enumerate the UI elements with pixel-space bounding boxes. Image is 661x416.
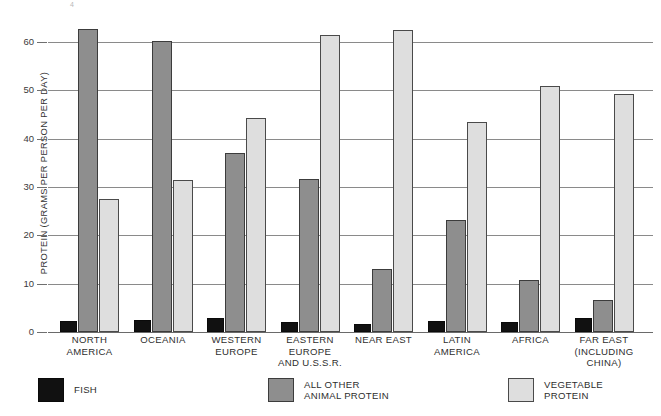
bar-group	[281, 14, 340, 332]
y-tick-mark	[37, 284, 47, 285]
bar-animal-protein	[446, 220, 466, 332]
page-corner-mark: 4	[70, 1, 74, 8]
y-tick-label: 50	[8, 84, 34, 95]
legend-item: VEGETABLE PROTEIN	[508, 378, 603, 402]
chart-legend: FISHALL OTHER ANIMAL PROTEINVEGETABLE PR…	[38, 378, 658, 412]
bar-fish	[60, 321, 77, 332]
bar-group	[60, 14, 119, 332]
bar-fish	[575, 318, 592, 333]
y-tick-mark	[37, 332, 47, 333]
bar-fish	[207, 318, 224, 332]
bar-fish	[428, 321, 445, 332]
bar-vegetable-protein	[246, 118, 266, 332]
bar-animal-protein	[152, 41, 172, 332]
bar-group	[134, 14, 193, 332]
y-tick-label: 20	[8, 229, 34, 240]
bar-group	[428, 14, 487, 332]
bar-animal-protein	[519, 280, 539, 332]
bar-fish	[354, 324, 371, 332]
bar-vegetable-protein	[99, 199, 119, 332]
y-tick-mark	[37, 90, 47, 91]
y-tick-label: 60	[8, 36, 34, 47]
bar-vegetable-protein	[467, 122, 487, 332]
bar-group	[207, 14, 266, 332]
y-tick-mark	[37, 42, 47, 43]
legend-item: FISH	[38, 378, 97, 402]
x-axis-category-labels: NORTH AMERICAOCEANIAWESTERN EUROPEEASTER…	[48, 334, 653, 384]
protein-consumption-bar-chart: 4 PROTEIN (GRAMS PER PERSON PER DAY) 010…	[0, 0, 661, 416]
bar-vegetable-protein	[614, 94, 634, 332]
y-tick-mark	[37, 235, 47, 236]
plot-area: 0102030405060	[48, 14, 653, 332]
y-tick-mark	[37, 187, 47, 188]
legend-label: VEGETABLE PROTEIN	[544, 379, 603, 402]
bar-fish	[134, 320, 151, 332]
y-tick-label: 10	[8, 278, 34, 289]
bar-fish	[501, 322, 518, 332]
legend-swatch-icon	[268, 378, 294, 402]
y-tick-label: 40	[8, 133, 34, 144]
x-axis-label: FAR EAST (INCLUDING CHINA)	[553, 334, 656, 369]
bar-vegetable-protein	[320, 35, 340, 332]
bar-animal-protein	[299, 179, 319, 332]
bar-vegetable-protein	[393, 30, 413, 332]
bar-group	[575, 14, 634, 332]
bar-vegetable-protein	[173, 180, 193, 332]
legend-label: FISH	[74, 384, 97, 395]
y-tick-mark	[37, 139, 47, 140]
bar-fish	[281, 322, 298, 332]
y-tick-label: 0	[8, 326, 34, 337]
legend-label: ALL OTHER ANIMAL PROTEIN	[304, 379, 389, 402]
axis-baseline	[48, 332, 653, 333]
bar-animal-protein	[593, 300, 613, 332]
legend-swatch-icon	[508, 378, 534, 402]
legend-swatch-icon	[38, 378, 64, 402]
bar-animal-protein	[372, 269, 392, 332]
y-tick-label: 30	[8, 181, 34, 192]
bar-vegetable-protein	[540, 86, 560, 332]
bar-animal-protein	[78, 29, 98, 332]
legend-item: ALL OTHER ANIMAL PROTEIN	[268, 378, 389, 402]
bar-group	[354, 14, 413, 332]
bar-animal-protein	[225, 153, 245, 332]
bar-group	[501, 14, 560, 332]
